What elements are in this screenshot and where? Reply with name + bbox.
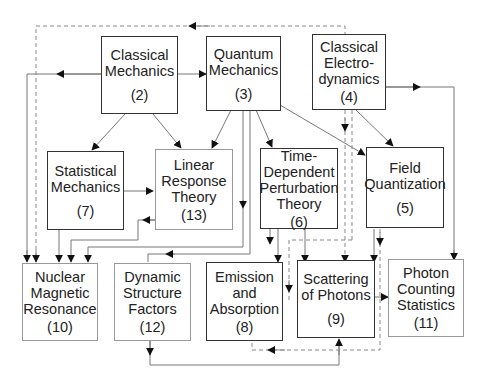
node-label: Classical Mechanics bbox=[105, 47, 174, 79]
node-label: Classical Electro- dynamics bbox=[318, 39, 379, 87]
node-label: Nuclear Magnetic Resonance bbox=[23, 269, 96, 317]
node-label: Scattering of Photons bbox=[301, 271, 370, 303]
node-number: (13) bbox=[181, 207, 207, 223]
node-linear-response-theory: Linear Response Theory (13) bbox=[155, 149, 233, 230]
node-quantum-mechanics: Quantum Mechanics (3) bbox=[206, 36, 281, 111]
node-number: (10) bbox=[47, 319, 73, 335]
node-number: (11) bbox=[414, 315, 439, 331]
edge-4-5 bbox=[356, 110, 393, 146]
node-classical-electrodynamics: Classical Electro- dynamics (4) bbox=[312, 34, 386, 110]
edge-12-9 bbox=[150, 339, 339, 365]
node-scattering-of-photons: Scattering of Photons (9) bbox=[297, 260, 375, 338]
edge-3-13 bbox=[212, 110, 231, 148]
node-label: Dynamic Structure Factors bbox=[123, 269, 182, 317]
node-number: (9) bbox=[327, 311, 345, 327]
node-number: (7) bbox=[77, 203, 95, 219]
node-field-quantization: Field Quantization (5) bbox=[366, 147, 444, 228]
node-number: (2) bbox=[131, 87, 149, 103]
edge-3-6 bbox=[256, 110, 272, 147]
node-time-dependent-perturbation-theory: Time- Dependent Perturbation Theory (6) bbox=[260, 148, 338, 229]
node-number: (6) bbox=[290, 214, 308, 230]
node-statistical-mechanics: Statistical Mechanics (7) bbox=[47, 151, 124, 230]
edge-2-7 bbox=[92, 114, 125, 150]
node-photon-counting-statistics: Photon Counting Statistics (11) bbox=[388, 259, 464, 337]
node-dynamic-structure-factors: Dynamic Structure Factors (12) bbox=[114, 263, 191, 341]
node-number: (3) bbox=[235, 86, 253, 102]
node-label: Quantum Mechanics bbox=[209, 46, 278, 78]
node-label: Time- Dependent Perturbation Theory bbox=[260, 148, 339, 212]
edge-2-13 bbox=[153, 114, 181, 148]
node-label: Statistical Mechanics bbox=[51, 163, 120, 195]
node-classical-mechanics: Classical Mechanics (2) bbox=[101, 36, 178, 114]
node-number: (8) bbox=[236, 319, 254, 335]
node-label: Linear Response Theory bbox=[161, 157, 226, 205]
node-number: (4) bbox=[340, 89, 358, 105]
node-label: Field Quantization bbox=[364, 160, 445, 192]
node-emission-and-absorption: Emission and Absorption (8) bbox=[206, 262, 283, 341]
node-number: (5) bbox=[396, 200, 414, 216]
node-number: (12) bbox=[140, 319, 166, 335]
node-label: Photon Counting Statistics bbox=[397, 265, 455, 313]
node-label: Emission and Absorption bbox=[210, 269, 279, 317]
node-nuclear-magnetic-resonance: Nuclear Magnetic Resonance (10) bbox=[22, 263, 98, 341]
